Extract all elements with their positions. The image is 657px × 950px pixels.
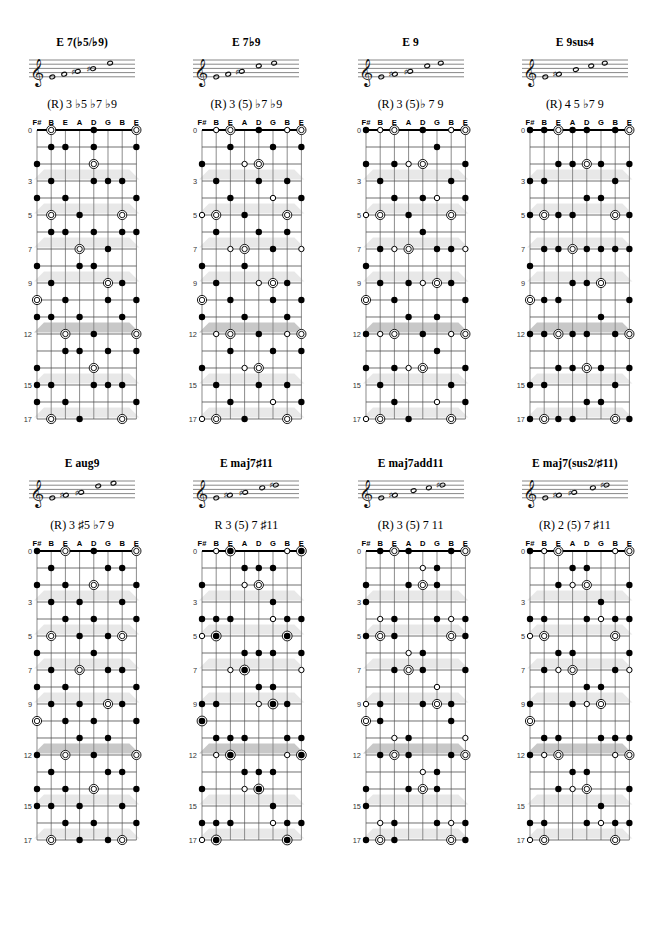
fretboard-diagram[interactable]: F#BEADGBE03579121517	[184, 114, 309, 429]
fretboard-wrapper[interactable]: F#BEADGBE03579121517	[19, 114, 144, 429]
fret-number-label: 0	[521, 126, 525, 135]
fret-number-label: 5	[357, 632, 361, 641]
chord-cell-e9sus4: E 9sus4𝄞♯(R) 4 5 ♭7 9F#BEADGBE0357912151…	[493, 34, 657, 429]
note-dot	[434, 399, 439, 404]
fret-inlay-marker	[363, 170, 468, 180]
fretboard-diagram[interactable]: F#BEADGBE03579121517	[19, 535, 144, 850]
note-dot	[611, 414, 620, 423]
fretboard-wrapper[interactable]: F#BEADGBE03579121517	[19, 535, 144, 850]
note-dot	[598, 161, 604, 167]
note-dot	[213, 616, 219, 622]
note-dot	[626, 786, 632, 792]
fret-number-label: 12	[517, 330, 525, 339]
svg-text:𝄞: 𝄞	[30, 479, 44, 508]
note-dot	[420, 769, 425, 774]
note-dot	[211, 210, 220, 219]
note-dot	[241, 314, 247, 320]
note-dot	[213, 548, 218, 553]
note-dot	[584, 280, 590, 286]
staff-wrapper: 𝄞♯	[520, 50, 630, 94]
note-dot	[420, 127, 426, 133]
note-dot	[377, 382, 383, 388]
fretboard-wrapper[interactable]: F#BEADGBE03579121517	[348, 114, 473, 429]
note-dot	[405, 314, 411, 320]
note-dot	[199, 212, 204, 217]
fretboard-wrapper[interactable]: F#BEADGBE03579121517	[512, 535, 637, 850]
note-dot	[527, 548, 533, 554]
fret-number-label: 5	[28, 211, 32, 220]
note-dot	[227, 195, 233, 201]
note-dot	[434, 820, 440, 826]
note-dot	[555, 786, 561, 792]
fretboard-wrapper[interactable]: F#BEADGBE03579121517	[348, 535, 473, 850]
note-dot	[105, 837, 111, 843]
note-dot	[527, 178, 533, 184]
string-label: A	[77, 539, 83, 548]
note-dot	[241, 416, 247, 422]
fretboard-wrapper[interactable]: F#BEADGBE03579121517	[184, 535, 309, 850]
note-dot	[213, 382, 219, 388]
note-dot	[269, 144, 275, 150]
note-dot	[540, 631, 549, 640]
note-dot	[625, 546, 634, 555]
fretboard-diagram[interactable]: F#BEADGBE03579121517	[512, 114, 637, 429]
note-dot	[134, 718, 140, 724]
note-dot	[227, 399, 233, 405]
note-dot	[527, 127, 533, 133]
fret-number-label: 15	[24, 381, 32, 390]
chord-title: E 9	[402, 34, 419, 50]
fret-inlay-marker	[527, 794, 632, 804]
chord-title: E 7(♭5/♭9)	[56, 34, 108, 50]
note-dot	[211, 631, 221, 641]
note-dot	[448, 718, 454, 724]
fret-number-label: 0	[521, 547, 525, 556]
note-dot	[418, 363, 427, 372]
fret-number-label: 17	[24, 415, 32, 424]
fretboard-diagram[interactable]: F#BEADGBE03579121517	[184, 535, 309, 850]
fret-number-label: 9	[193, 700, 197, 709]
fretboard-wrapper[interactable]: F#BEADGBE03579121517	[512, 114, 637, 429]
note-dot	[541, 297, 547, 303]
string-label: B	[613, 539, 619, 548]
note-dot	[134, 820, 140, 826]
note-dot	[199, 633, 204, 638]
note-dot	[582, 784, 591, 793]
note-dot	[526, 716, 535, 725]
fret-inlay-marker	[363, 693, 468, 703]
note-dot	[462, 161, 468, 167]
note-dot	[447, 631, 456, 640]
note-dot	[447, 210, 456, 219]
chord-cell-e7b5b9: E 7(♭5/♭9)𝄞♯♯(R) 3 ♭5 ♭7 ♭9F#BEADGBE0357…	[0, 34, 164, 429]
note-dot	[582, 363, 591, 372]
chord-formula: (R) 3 (5)♭ 7 9	[378, 94, 444, 114]
fret-number-label: 9	[521, 279, 525, 288]
string-label: G	[270, 118, 276, 127]
note-dot	[555, 735, 561, 741]
fretboard-wrapper[interactable]: F#BEADGBE03579121517	[184, 114, 309, 429]
note-dot	[134, 195, 140, 201]
string-label: B	[377, 539, 383, 548]
note-dot	[612, 616, 618, 622]
note-dot	[612, 331, 618, 337]
fretboard-diagram[interactable]: F#BEADGBE03579121517	[348, 535, 473, 850]
note-dot	[541, 667, 547, 673]
note-dot	[405, 280, 411, 286]
note-dot	[625, 125, 634, 134]
string-label: F#	[526, 539, 536, 548]
string-label: A	[406, 118, 412, 127]
note-dot	[363, 701, 368, 706]
chord-title: E maj7add11	[378, 455, 444, 471]
fretboard-diagram[interactable]: F#BEADGBE03579121517	[512, 535, 637, 850]
note-dot	[526, 295, 535, 304]
fretboard-diagram[interactable]: F#BEADGBE03579121517	[348, 114, 473, 429]
note-dot	[48, 599, 54, 605]
note-dot	[34, 314, 40, 320]
note-dot	[626, 297, 632, 303]
note-dot	[225, 750, 235, 760]
note-dot	[282, 835, 292, 845]
note-dot	[570, 582, 575, 587]
fretboard-diagram[interactable]: F#BEADGBE03579121517	[19, 114, 144, 429]
note-dot	[134, 144, 140, 150]
note-dot	[584, 701, 589, 706]
note-dot	[461, 546, 470, 555]
